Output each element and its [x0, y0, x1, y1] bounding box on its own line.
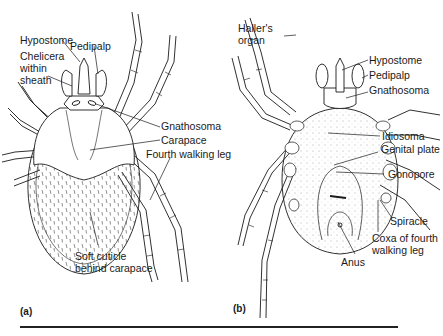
label-spiracle-b: Spiracle: [390, 215, 428, 227]
label-chelicera-a: Chelicera within sheath: [20, 50, 64, 86]
label-hypostome-a: Hypostome: [20, 34, 73, 46]
label-soft-cuticle-a: Soft cuticle behind carapace: [75, 250, 153, 274]
label-gonopore-b: Gonopore: [388, 168, 435, 180]
label-anus-b: Anus: [341, 256, 365, 268]
panel-tag-b: (b): [233, 303, 246, 314]
pedipalp-b-right: [352, 64, 364, 88]
label-coxa-b: Coxa of fourth walking leg: [372, 232, 438, 256]
gnathosoma-a: [64, 96, 104, 110]
label-hypostome-b: Hypostome: [369, 54, 422, 66]
label-gnathosoma-a: Gnathosoma: [161, 120, 221, 132]
pedipalp-a-right: [96, 70, 107, 96]
hypostome-b: [336, 58, 344, 92]
label-fourth-walking-leg-a: Fourth walking leg: [146, 148, 231, 160]
hypostome-a: [78, 58, 90, 94]
panel-tag-a: (a): [20, 306, 32, 317]
label-genital-plate-b: Genital plate: [381, 143, 440, 155]
label-idiosoma-b: Idiosoma: [382, 130, 425, 142]
label-carapace-a: Carapace: [161, 134, 207, 146]
label-pedipalp-b: Pedipalp: [369, 69, 410, 81]
bottom-rule: [20, 326, 398, 328]
tick-anatomy-diagram: [0, 0, 443, 336]
pedipalp-b-left: [316, 64, 328, 88]
label-pedipalp-a: Pedipalp: [70, 40, 111, 52]
label-gnathosoma-b: Gnathosoma: [369, 84, 429, 96]
label-hallers-organ-b: Haller's organ: [238, 22, 273, 46]
